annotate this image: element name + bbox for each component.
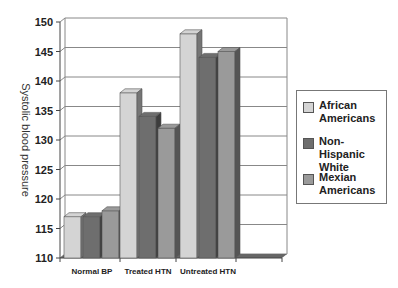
y-tick-label: 135 bbox=[35, 105, 53, 117]
y-tick-label: 145 bbox=[35, 46, 53, 58]
x-category-label: Untreated HTN bbox=[180, 267, 236, 276]
bar bbox=[180, 30, 202, 258]
x-category-label: Normal BP bbox=[72, 267, 114, 276]
y-tick-label: 120 bbox=[35, 193, 53, 205]
x-category-label: Treated HTN bbox=[124, 267, 171, 276]
y-tick-label: 140 bbox=[35, 75, 53, 87]
y-tick-label: 110 bbox=[35, 252, 53, 264]
y-tick-label: 150 bbox=[35, 16, 53, 28]
bar bbox=[64, 213, 86, 258]
bar bbox=[139, 112, 161, 258]
bar bbox=[218, 48, 240, 259]
y-tick-label: 125 bbox=[35, 164, 53, 176]
bar bbox=[120, 89, 142, 258]
bar bbox=[158, 124, 180, 258]
legend-swatch-icon bbox=[303, 174, 314, 185]
y-tick-label: 130 bbox=[35, 134, 53, 146]
bar bbox=[199, 53, 221, 258]
legend-item-non-hispanic-white: Non-Hispanic White bbox=[303, 135, 389, 174]
legend-item-african-americans: African Americans bbox=[303, 99, 389, 125]
legend-swatch-icon bbox=[303, 138, 314, 149]
legend-item-mexian-americans: Mexian Americans bbox=[303, 171, 389, 197]
bar bbox=[83, 213, 105, 258]
y-axis-label: Systolic blood pressure bbox=[20, 83, 32, 197]
legend: African Americans Non-Hispanic White Mex… bbox=[296, 90, 387, 204]
chart: 110115120125130135140145150Systolic bloo… bbox=[0, 0, 398, 288]
y-tick-label: 115 bbox=[35, 223, 53, 235]
legend-swatch-icon bbox=[303, 102, 314, 113]
